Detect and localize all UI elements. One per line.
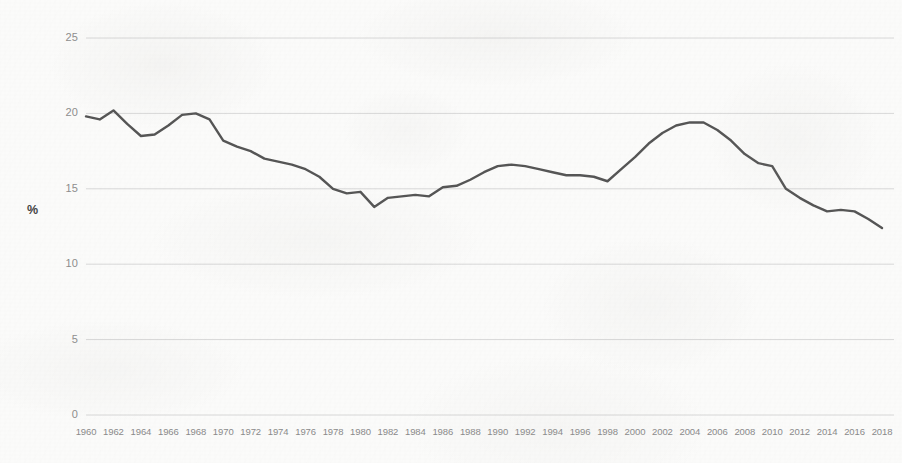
y-axis-title: % — [27, 203, 38, 217]
y-tick-10: 10 — [50, 257, 78, 269]
chart-canvas — [0, 0, 902, 463]
line-chart: 0510152025 19601962196419661968197019721… — [0, 0, 902, 463]
gridlines — [86, 38, 894, 415]
data-series-group — [86, 110, 882, 228]
y-tick-0: 0 — [50, 408, 78, 420]
y-tick-5: 5 — [50, 333, 78, 345]
y-tick-15: 15 — [50, 182, 78, 194]
y-tick-25: 25 — [50, 31, 78, 43]
x-tick-2018: 2018 — [865, 426, 899, 437]
y-tick-20: 20 — [50, 106, 78, 118]
data-line-percent — [86, 110, 882, 228]
